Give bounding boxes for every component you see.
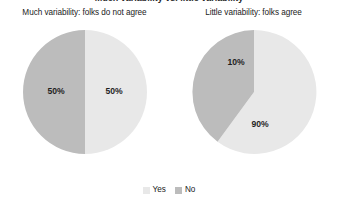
pie-svg-little-variability: 90% 10%	[188, 22, 320, 162]
legend-swatch-yes-icon	[143, 187, 150, 194]
pie-panel-subtitle-much-variability: Much variability: folks do not agree	[0, 8, 169, 17]
pie-chart-panels: Much variability: folks do not agree 50%…	[0, 8, 338, 180]
chart-legend: Yes No	[0, 186, 338, 194]
legend-item-no[interactable]: No	[175, 186, 195, 194]
pie-label-no-little-variability: 10%	[227, 57, 245, 67]
legend-label-no: No	[185, 186, 195, 194]
pie-label-no-much-variability: 50%	[47, 86, 65, 96]
legend-label-yes: Yes	[153, 186, 166, 194]
pie-label-yes-little-variability: 90%	[251, 119, 269, 129]
figure-title-cropped: Much variability vs. little variability	[0, 0, 338, 7]
pie-chart-little-variability: 90% 10%	[169, 22, 338, 174]
figure-title-text: Much variability vs. little variability	[0, 0, 338, 3]
legend-item-yes[interactable]: Yes	[143, 186, 166, 194]
pie-chart-much-variability: 50% 50%	[0, 22, 169, 174]
legend-swatch-no-icon	[175, 187, 182, 194]
pie-panel-little-variability: Little variability: folks agree 90% 10%	[169, 8, 338, 180]
pie-svg-much-variability: 50% 50%	[19, 22, 151, 162]
pie-label-yes-much-variability: 50%	[105, 86, 123, 96]
pie-panel-much-variability: Much variability: folks do not agree 50%…	[0, 8, 169, 180]
pie-panel-subtitle-little-variability: Little variability: folks agree	[169, 8, 338, 17]
